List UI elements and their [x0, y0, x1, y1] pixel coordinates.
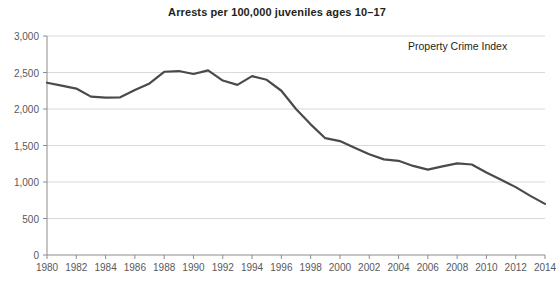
gridlines	[47, 36, 545, 219]
data-line-property-crime-index	[47, 70, 545, 204]
x-axis-tick-marks	[47, 255, 545, 259]
y-axis-tick-marks	[43, 36, 47, 255]
